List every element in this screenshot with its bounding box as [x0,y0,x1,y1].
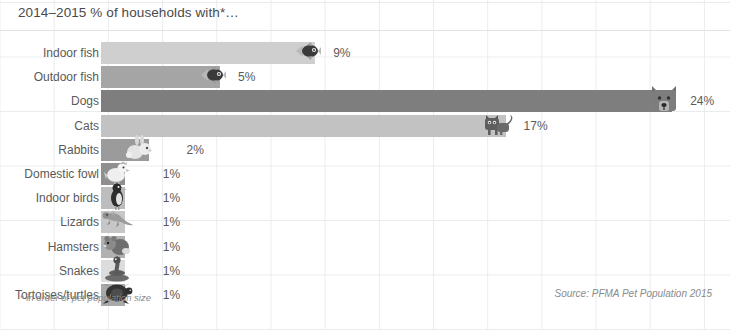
value-label: 1% [163,211,180,233]
bar-row: Cats 17% [0,115,730,137]
category-label: Outdoor fish [34,66,99,88]
bar-row: Rabbits 2% [0,139,730,161]
bar-row: Outdoor fish 5% [0,66,730,88]
category-label: Rabbits [58,139,99,161]
value-label: 9% [333,42,350,64]
bar-row: Hamsters 1% [0,236,730,258]
category-label: Snakes [59,260,99,282]
chart-canvas: 2014–2015 % of households with*… Indoor … [0,0,730,330]
bar[interactable] [101,211,125,233]
plot-area: Indoor fish 9%Outdoor fish 5%Dogs 24%Cat… [0,42,730,267]
bar[interactable] [101,90,672,112]
chart-title: 2014–2015 % of households with*… [18,5,239,20]
bar-row: Indoor fish 9% [0,42,730,64]
value-label: 1% [163,284,180,306]
header-rule [0,30,730,31]
value-label: 2% [187,139,204,161]
bar-row: Domestic fowl 1% [0,163,730,185]
value-label: 5% [238,66,255,88]
bar[interactable] [101,163,125,185]
bar[interactable] [101,42,315,64]
bar-row: Indoor birds 1% [0,187,730,209]
chart-source: Source: PFMA Pet Population 2015 [555,288,713,299]
bar[interactable] [101,115,506,137]
category-label: Indoor fish [43,42,99,64]
category-label: Lizards [60,211,99,233]
value-label: 17% [524,115,548,137]
bar-row: Dogs 24% [0,90,730,112]
bar[interactable] [101,187,125,209]
bar-row: Lizards 1% [0,211,730,233]
value-label: 1% [163,187,180,209]
category-label: Dogs [71,90,99,112]
category-label: Hamsters [48,236,99,258]
chart-footnote: * in order of pet population size [20,292,151,303]
value-label: 1% [163,163,180,185]
bar[interactable] [101,236,125,258]
category-label: Domestic fowl [24,163,99,185]
bar[interactable] [101,66,220,88]
value-label: 24% [690,90,714,112]
category-label: Cats [74,115,99,137]
value-label: 1% [163,236,180,258]
category-label: Indoor birds [36,187,99,209]
value-label: 1% [163,260,180,282]
bar-row: Snakes 1% [0,260,730,282]
bar[interactable] [101,260,125,282]
bar[interactable] [101,139,149,161]
